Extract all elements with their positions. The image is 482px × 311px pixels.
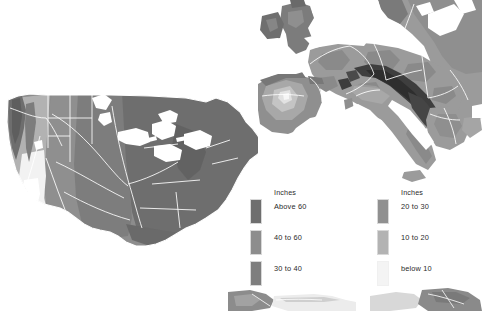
legend-swatch-10-to-20 bbox=[377, 230, 389, 255]
legend-left-row-above-60[interactable]: Above 60 bbox=[250, 199, 296, 225]
legend-us-precipitation: Inches Above 60 40 to 60 30 to 40 bbox=[250, 188, 296, 292]
legend-swatch-40-to-60 bbox=[250, 230, 262, 255]
us-map-svg bbox=[0, 88, 268, 268]
legend-right-title: Inches bbox=[401, 188, 423, 197]
legend-swatch-30-to-40 bbox=[250, 261, 262, 286]
legend-label-30-to-40: 30 to 40 bbox=[274, 264, 302, 273]
legend-left-row-30-to-40[interactable]: 30 to 40 bbox=[250, 261, 296, 287]
legend-label-above-60: Above 60 bbox=[274, 202, 306, 211]
europe-map-svg bbox=[258, 0, 482, 182]
legend-swatch-below-10 bbox=[377, 261, 389, 286]
legend-label-20-to-30: 20 to 30 bbox=[401, 202, 429, 211]
legend-right-row-20-to-30[interactable]: 20 to 30 bbox=[377, 199, 423, 225]
legend-right-row-10-to-20[interactable]: 10 to 20 bbox=[377, 230, 423, 256]
united-states-precipitation-map bbox=[0, 88, 268, 268]
europe-precipitation-map bbox=[258, 0, 482, 182]
legend-swatch-above-60 bbox=[250, 199, 262, 224]
legend-label-10-to-20: 10 to 20 bbox=[401, 233, 429, 242]
legend-label-40-to-60: 40 to 60 bbox=[274, 233, 302, 242]
legend-left-title: Inches bbox=[274, 188, 296, 197]
legend-label-below-10: below 10 bbox=[401, 264, 432, 273]
legend-right-row-below-10[interactable]: below 10 bbox=[377, 261, 423, 287]
legend-left-row-40-to-60[interactable]: 40 to 60 bbox=[250, 230, 296, 256]
legend-swatch-20-to-30 bbox=[377, 199, 389, 224]
legend-europe-precipitation: Inches 20 to 30 10 to 20 below 10 bbox=[377, 188, 423, 292]
atlas-page: Inches Above 60 40 to 60 30 to 40 Inches… bbox=[0, 0, 482, 311]
